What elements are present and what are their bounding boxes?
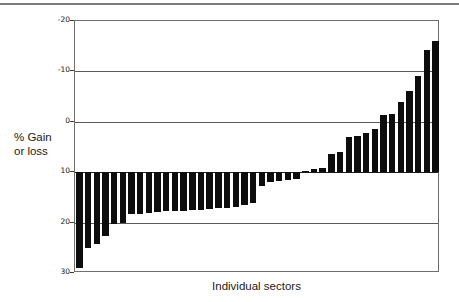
- y-axis-title-line-2: or loss: [14, 144, 72, 158]
- y-axis-tick-label: 20: [44, 218, 70, 226]
- bar: [293, 172, 299, 179]
- bar: [415, 76, 421, 172]
- header-rule: [0, 3, 459, 5]
- bar: [267, 172, 273, 182]
- bar: [233, 172, 239, 207]
- bar: [372, 129, 378, 172]
- bar: [276, 172, 282, 181]
- bar: [319, 168, 325, 173]
- bar: [163, 172, 169, 211]
- bar: [111, 172, 117, 223]
- y-axis-tick-mark: [70, 272, 74, 273]
- bar: [85, 172, 91, 248]
- y-axis-tick-label: 30: [44, 268, 70, 276]
- bar: [328, 154, 334, 173]
- bar: [146, 172, 152, 213]
- y-axis-tick-label: 0: [44, 117, 70, 125]
- bar: [259, 172, 265, 186]
- y-axis-title-line-1: % Gain: [14, 130, 72, 144]
- bar: [432, 41, 438, 173]
- bar: [285, 172, 291, 180]
- bar: [180, 172, 186, 211]
- bar: [363, 133, 369, 172]
- bar: [424, 50, 430, 172]
- bar: [128, 172, 134, 214]
- bar: [311, 169, 317, 173]
- bar: [250, 172, 256, 203]
- bar: [389, 114, 395, 172]
- bar: [398, 102, 404, 172]
- bar: [154, 172, 160, 212]
- chart-screenshot: 3020100-10-20 % Gain or loss Individual …: [0, 0, 459, 302]
- bar: [406, 91, 412, 172]
- bar: [120, 172, 126, 223]
- x-axis-title: Individual sectors: [74, 279, 439, 293]
- y-axis-tick-label: -20: [44, 16, 70, 24]
- bar: [302, 171, 308, 172]
- plot-area: [74, 20, 439, 272]
- bar: [346, 137, 352, 172]
- bar: [102, 172, 108, 236]
- bar: [354, 136, 360, 172]
- bar: [206, 172, 212, 209]
- bar-series: [75, 21, 438, 271]
- bar: [337, 152, 343, 173]
- bar: [380, 115, 386, 172]
- bar: [241, 172, 247, 205]
- bar: [172, 172, 178, 211]
- y-axis-tick-label: 10: [44, 167, 70, 175]
- y-axis-title: % Gain or loss: [14, 130, 72, 158]
- bar: [94, 172, 100, 244]
- bar: [189, 172, 195, 210]
- bar: [76, 172, 82, 268]
- y-axis-tick-label: -10: [44, 66, 70, 74]
- bar: [215, 172, 221, 208]
- bar: [137, 172, 143, 213]
- bar: [198, 172, 204, 210]
- bar: [224, 172, 230, 208]
